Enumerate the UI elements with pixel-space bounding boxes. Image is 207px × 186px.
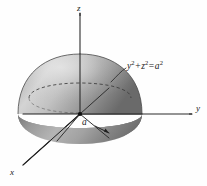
- axis-label-y: y: [196, 104, 200, 113]
- radius-label-a: a: [82, 118, 87, 128]
- eq-term-a-exponent: 2: [160, 59, 163, 66]
- figure-container: z y x y2+z2=a2 a: [0, 0, 207, 186]
- surface-equation-label: y2+z2=a2: [127, 62, 163, 72]
- origin-dot: [78, 112, 82, 116]
- dome-inner-face: [18, 114, 142, 144]
- diagram-canvas: [0, 0, 207, 186]
- axis-label-x: x: [10, 168, 14, 177]
- axis-label-z: z: [77, 4, 81, 13]
